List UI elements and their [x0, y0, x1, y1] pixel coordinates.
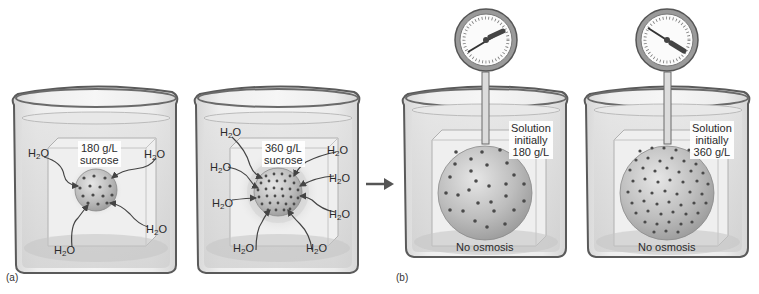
solution-label-b2: Solution initially 360 g/L — [690, 121, 734, 159]
right-arrow-icon — [366, 178, 394, 190]
pressure-gauge-icon — [636, 9, 698, 71]
solution-label-b1: Solution initially 180 g/L — [509, 121, 553, 159]
concentration-label-a1: 180 g/L sucrose — [78, 141, 121, 167]
panel-letter-b: (b) — [396, 272, 408, 283]
water-label: H2O — [212, 197, 233, 209]
water-label: H2O — [329, 172, 350, 184]
water-label: H2O — [54, 244, 75, 256]
water-label: H2O — [233, 242, 254, 254]
pressure-gauge-icon — [455, 9, 517, 71]
caption-no-osmosis: No osmosis — [456, 241, 513, 253]
panel-letter-a: (a) — [6, 272, 18, 283]
water-label: H2O — [146, 223, 167, 235]
water-label: H2O — [144, 148, 165, 160]
water-label: H2O — [220, 126, 241, 138]
water-label: H2O — [329, 208, 350, 220]
concentration-label-a2: 360 g/L sucrose — [262, 141, 305, 167]
water-label: H2O — [210, 161, 231, 173]
water-label: H2O — [306, 242, 327, 254]
water-label: H2O — [327, 144, 348, 156]
water-label: H2O — [28, 147, 49, 159]
beaker-a1 — [13, 86, 178, 273]
caption-no-osmosis: No osmosis — [638, 241, 695, 253]
